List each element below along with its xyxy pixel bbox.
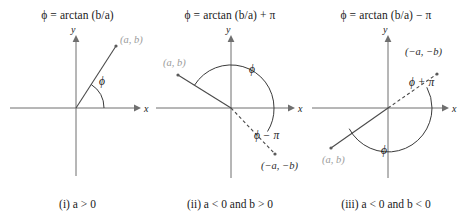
panel-i: ϕ = arctan (b/a) x y (a, b) ϕ (i) a [0, 0, 155, 217]
figure-root: ϕ = arctan (b/a) x y (a, b) ϕ (i) a [0, 0, 464, 217]
panel-ii-title: ϕ = arctan (b/a) + π [152, 8, 308, 22]
point-label-ab: (a, b) [322, 154, 345, 166]
angle-label-phi: ϕ [99, 75, 105, 88]
point-marker-ab [329, 146, 332, 149]
angle-label-phi-minus-pi: ϕ − π [254, 129, 280, 142]
point-marker-neg-ab [273, 152, 276, 155]
angle-label-phi: ϕ [249, 63, 255, 76]
point-marker-ab [176, 73, 179, 76]
point-marker-neg-ab [435, 72, 438, 75]
angle-arc-phi [349, 108, 432, 152]
y-axis-label: y [382, 24, 388, 35]
y-axis-arrowhead [73, 35, 80, 42]
panel-iii: ϕ = arctan (b/a) − π x [308, 0, 464, 217]
panel-ii-diagram: x y (a, b) (−a, −b) ϕ ϕ − π [152, 26, 308, 188]
panel-iii-caption: (iii) a < 0 and b < 0 [308, 197, 464, 211]
x-axis-arrowhead [134, 105, 141, 112]
panel-ii-caption: (ii) a < 0 and b > 0 [152, 197, 308, 211]
y-axis-arrowhead [228, 35, 235, 42]
y-axis-arrowhead [385, 35, 392, 42]
ray-to-point-ab [178, 75, 231, 108]
ray-to-point-ab [76, 46, 116, 108]
x-axis-label: x [451, 103, 457, 114]
y-axis-label: y [70, 24, 76, 35]
point-label-neg-ab: (−a, −b) [261, 160, 298, 172]
panel-ii: ϕ = arctan (b/a) + π x [152, 0, 308, 217]
point-label-ab: (a, b) [163, 57, 186, 69]
panel-iii-title: ϕ = arctan (b/a) − π [308, 8, 464, 22]
point-marker-ab [114, 44, 117, 47]
angle-label-phi: ϕ [381, 144, 387, 157]
panel-iii-diagram: x y (−a, −b) (a, b) ϕ + π ϕ [308, 26, 464, 188]
angle-arc-phi [195, 65, 275, 108]
angle-label-phi-plus-pi: ϕ + π [409, 76, 435, 89]
panel-i-caption: (i) a > 0 [0, 197, 155, 211]
angle-arc-phi-plus-pi [427, 87, 432, 108]
x-axis-arrowhead [442, 105, 449, 112]
point-label-neg-ab: (−a, −b) [405, 46, 442, 58]
panel-i-title: ϕ = arctan (b/a) [0, 8, 155, 22]
angle-arc-phi-minus-pi [268, 108, 275, 132]
x-axis-label: x [143, 103, 149, 114]
panel-i-diagram: x y (a, b) ϕ [0, 26, 155, 188]
point-label-ab: (a, b) [120, 34, 143, 46]
x-axis-label: x [297, 103, 303, 114]
y-axis-label: y [225, 24, 231, 35]
angle-arc-phi [91, 85, 104, 109]
x-axis-arrowhead [288, 105, 295, 112]
